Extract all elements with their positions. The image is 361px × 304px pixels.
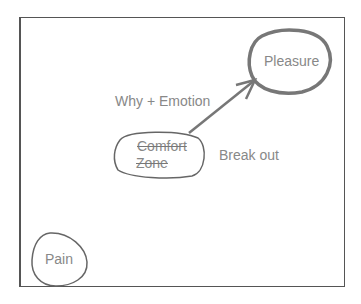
edge-label-why-emotion: Why + Emotion xyxy=(115,93,210,109)
break-out-annotation: Break out xyxy=(219,147,279,163)
comfort-node-label-line1: Comfort xyxy=(137,138,187,154)
comfort-node-label-line2: Zone xyxy=(136,155,168,171)
pleasure-node-label: Pleasure xyxy=(264,53,319,69)
pain-node-label: Pain xyxy=(45,251,73,267)
